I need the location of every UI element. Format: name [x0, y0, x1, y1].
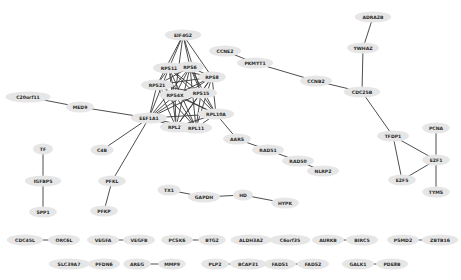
node-label: RPL11: [188, 126, 204, 131]
node-label: BTG2: [205, 238, 219, 243]
node-label: GAPDH: [195, 195, 214, 200]
node-gapdh[interactable]: GAPDH: [188, 192, 220, 203]
node-pde8b[interactable]: PDE8B: [376, 259, 408, 270]
node-label: AARS: [230, 137, 244, 142]
node-label: RPL10A: [206, 112, 226, 117]
node-label: ALDH3A2: [239, 238, 263, 243]
node-e2f1[interactable]: E2F1: [422, 155, 450, 166]
node-c20orf11[interactable]: C20orf11: [5, 92, 50, 103]
node-pcsk6[interactable]: PCSK6: [161, 235, 193, 246]
node-label: E2F5: [396, 178, 409, 183]
node-label: EEF1A1: [139, 116, 158, 121]
node-label: CCNE2: [217, 49, 234, 54]
node-pcna[interactable]: PCNA: [422, 123, 450, 134]
node-hypk[interactable]: HYPK: [271, 198, 299, 209]
node-label: CDC25B: [352, 90, 373, 95]
node-label: PFDN6: [95, 262, 112, 267]
node-ccne2[interactable]: CCNE2: [209, 46, 241, 57]
node-fads2[interactable]: FADS2: [297, 259, 329, 270]
node-tyms[interactable]: TYMS: [422, 187, 450, 198]
node-label: TFDP1: [385, 134, 402, 139]
node-label: RPS8: [205, 75, 218, 80]
node-label: CDC45L: [15, 238, 35, 243]
node-label: IGFBP5: [34, 179, 53, 184]
node-c6orf35[interactable]: C6orf35: [270, 235, 311, 246]
node-cdc45l[interactable]: CDC45L: [7, 235, 43, 246]
node-label: C4B: [97, 148, 108, 153]
node-label: HD: [239, 193, 247, 198]
node-vegfb[interactable]: VEGFB: [123, 235, 155, 246]
node-orc6l[interactable]: ORC6L: [48, 235, 80, 246]
node-aldh3a2[interactable]: ALDH3A2: [231, 235, 272, 246]
node-label: AURKB: [319, 238, 337, 243]
node-fads1[interactable]: FADS1: [264, 259, 296, 270]
node-hd[interactable]: HD: [233, 190, 253, 201]
node-pfdn6[interactable]: PFDN6: [88, 259, 120, 270]
node-label: PFKL: [106, 179, 119, 184]
node-rps8[interactable]: RPS8: [198, 72, 226, 83]
node-nlrp2[interactable]: NLRP2: [307, 166, 339, 177]
node-adra2b[interactable]: ADRA2B: [355, 12, 391, 23]
node-label: PKMYT1: [244, 61, 265, 66]
node-pfkl[interactable]: PFKL: [98, 176, 126, 187]
node-btg2[interactable]: BTG2: [198, 235, 226, 246]
node-rpl11[interactable]: RPL11: [180, 123, 212, 134]
node-galk1[interactable]: GALK1: [342, 259, 374, 270]
edge-cdc25b-ywhaz: [362, 48, 363, 92]
node-aurkb[interactable]: AURKB: [312, 235, 344, 246]
node-label: HYPK: [278, 201, 293, 206]
node-eif4g2[interactable]: EIF4G2: [165, 30, 201, 41]
node-label: SLC39A7: [58, 262, 81, 267]
node-pfkp[interactable]: PFKP: [90, 206, 118, 217]
node-psmd2[interactable]: PSMD2: [387, 235, 419, 246]
node-tf[interactable]: TF: [33, 144, 53, 155]
node-plp2[interactable]: PLP2: [201, 259, 229, 270]
node-slc39a7[interactable]: SLC39A7: [49, 259, 90, 270]
node-ywhaz[interactable]: YWHAZ: [347, 43, 379, 54]
node-label: TX1: [164, 188, 174, 193]
node-rps6[interactable]: RPS6: [176, 62, 204, 73]
node-tfdp1[interactable]: TFDP1: [377, 131, 409, 142]
node-label: BCAP31: [238, 262, 258, 267]
node-label: PCSK6: [169, 238, 186, 243]
node-spp1[interactable]: SPP1: [29, 207, 57, 218]
node-label: PCNA: [429, 126, 444, 131]
node-mmp9[interactable]: MMP9: [158, 259, 186, 270]
node-label: VEGFB: [130, 238, 148, 243]
node-zbtb16[interactable]: ZBTB16: [422, 235, 458, 246]
node-label: ORC6L: [56, 238, 73, 243]
node-rad51[interactable]: RAD51: [252, 145, 284, 156]
node-label: VEGFA: [95, 238, 112, 243]
node-e2f5[interactable]: E2F5: [388, 175, 416, 186]
network-diagram: EIF4G2RPS12RPS6RPS8RPS21RPS4XRPS15RPL10A…: [0, 0, 461, 280]
node-pkmyt1[interactable]: PKMYT1: [237, 58, 273, 69]
node-tx1[interactable]: TX1: [157, 185, 180, 196]
node-label: PSMD2: [394, 238, 412, 243]
node-vegfa[interactable]: VEGFA: [87, 235, 119, 246]
node-aars[interactable]: AARS: [223, 134, 251, 145]
node-c4b[interactable]: C4B: [90, 145, 113, 156]
node-label: CCNB2: [307, 79, 324, 84]
node-label: FADS1: [272, 262, 288, 267]
node-rps21[interactable]: RPS21: [141, 80, 173, 91]
node-label: MMP9: [164, 262, 180, 267]
node-label: MED9: [73, 105, 88, 110]
node-label: BIRC5: [354, 238, 369, 243]
node-rad50[interactable]: RAD50: [282, 156, 314, 167]
node-rps15[interactable]: RPS15: [185, 88, 217, 99]
node-med9[interactable]: MED9: [66, 102, 94, 113]
node-label: NLRP2: [315, 169, 332, 174]
node-label: GALK1: [349, 262, 366, 267]
node-label: ADRA2B: [362, 15, 384, 20]
node-igfbp5[interactable]: IGFBP5: [25, 176, 61, 187]
node-bcap31[interactable]: BCAP31: [230, 259, 266, 270]
network-svg: EIF4G2RPS12RPS6RPS8RPS21RPS4XRPS15RPL10A…: [0, 0, 461, 280]
node-label: RPS6: [183, 65, 196, 70]
node-rpl10a[interactable]: RPL10A: [198, 109, 234, 120]
node-cdc25b[interactable]: CDC25B: [344, 87, 380, 98]
node-ccnb2[interactable]: CCNB2: [300, 76, 332, 87]
node-label: E2F1: [430, 158, 443, 163]
node-birc5[interactable]: BIRC5: [346, 235, 378, 246]
node-areg[interactable]: AREG: [123, 259, 151, 270]
node-eef1a1[interactable]: EEF1A1: [131, 113, 167, 124]
